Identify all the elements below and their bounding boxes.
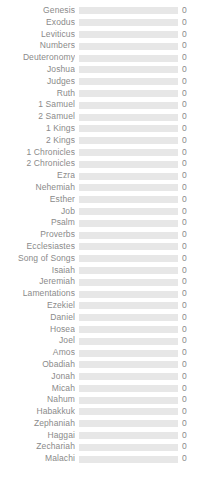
chart-row-label: 2 Samuel — [0, 111, 75, 123]
chart-bar-track — [79, 267, 178, 274]
chart-row[interactable]: Judges0 — [0, 76, 200, 88]
chart-row-label: Ecclesiastes — [0, 241, 75, 253]
chart-row-value: 0 — [182, 347, 200, 359]
chart-bar-track — [79, 55, 178, 62]
chart-bar-track — [79, 456, 178, 463]
chart-row[interactable]: Numbers0 — [0, 40, 200, 52]
chart-row-value: 0 — [182, 206, 200, 218]
chart-row[interactable]: Zephaniah0 — [0, 418, 200, 430]
chart-bar-track — [79, 255, 178, 262]
chart-bar-track — [79, 338, 178, 345]
chart-row[interactable]: Jeremiah0 — [0, 276, 200, 288]
chart-row-value: 0 — [182, 383, 200, 395]
chart-row-value: 0 — [182, 194, 200, 206]
chart-bar-track — [79, 432, 178, 439]
chart-row-value: 0 — [182, 76, 200, 88]
chart-row[interactable]: Ezra0 — [0, 170, 200, 182]
chart-bar-track — [79, 7, 178, 14]
chart-row-label: Habakkuk — [0, 406, 75, 418]
chart-row-label: Joel — [0, 335, 75, 347]
chart-row[interactable]: Joshua0 — [0, 64, 200, 76]
chart-row[interactable]: Genesis0 — [0, 5, 200, 17]
chart-bar-track — [79, 420, 178, 427]
chart-row-label: 2 Chronicles — [0, 158, 75, 170]
chart-row-label: Micah — [0, 383, 75, 395]
chart-row[interactable]: Zechariah0 — [0, 441, 200, 453]
chart-row-value: 0 — [182, 359, 200, 371]
chart-row[interactable]: Haggai0 — [0, 430, 200, 442]
chart-row[interactable]: Daniel0 — [0, 312, 200, 324]
chart-row-value: 0 — [182, 182, 200, 194]
chart-row-value: 0 — [182, 276, 200, 288]
chart-row[interactable]: Jonah0 — [0, 371, 200, 383]
chart-row[interactable]: Nahum0 — [0, 394, 200, 406]
chart-row[interactable]: Micah0 — [0, 383, 200, 395]
chart-bar-track — [79, 31, 178, 38]
chart-row-label: Isaiah — [0, 265, 75, 277]
chart-row[interactable]: Lamentations0 — [0, 288, 200, 300]
chart-row[interactable]: Amos0 — [0, 347, 200, 359]
chart-bar-track — [79, 90, 178, 97]
chart-row[interactable]: Ezekiel0 — [0, 300, 200, 312]
chart-bar-track — [79, 314, 178, 321]
chart-row-label: Ezra — [0, 170, 75, 182]
chart-bar-track — [79, 373, 178, 380]
chart-bar-track — [79, 208, 178, 215]
chart-row[interactable]: Psalm0 — [0, 217, 200, 229]
chart-row[interactable]: Job0 — [0, 206, 200, 218]
chart-row-value: 0 — [182, 123, 200, 135]
chart-row-value: 0 — [182, 288, 200, 300]
chart-row[interactable]: Isaiah0 — [0, 265, 200, 277]
chart-bar-track — [79, 114, 178, 121]
chart-row[interactable]: 1 Samuel0 — [0, 99, 200, 111]
chart-row-value: 0 — [182, 64, 200, 76]
chart-row[interactable]: Song of Songs0 — [0, 253, 200, 265]
chart-row-value: 0 — [182, 29, 200, 41]
chart-row-label: Deuteronomy — [0, 52, 75, 64]
chart-row[interactable]: Obadiah0 — [0, 359, 200, 371]
chart-row[interactable]: Proverbs0 — [0, 229, 200, 241]
chart-row-value: 0 — [182, 217, 200, 229]
chart-row-value: 0 — [182, 5, 200, 17]
chart-row[interactable]: Esther0 — [0, 194, 200, 206]
chart-row-label: Malachi — [0, 453, 75, 465]
chart-row[interactable]: Joel0 — [0, 335, 200, 347]
chart-row[interactable]: Ecclesiastes0 — [0, 241, 200, 253]
chart-row-value: 0 — [182, 300, 200, 312]
chart-row[interactable]: Exodus0 — [0, 17, 200, 29]
chart-row-label: Daniel — [0, 312, 75, 324]
chart-row[interactable]: 2 Kings0 — [0, 135, 200, 147]
chart-bar-track — [79, 43, 178, 50]
chart-row-value: 0 — [182, 147, 200, 159]
chart-row[interactable]: 2 Chronicles0 — [0, 158, 200, 170]
chart-row-label: Nahum — [0, 394, 75, 406]
chart-row[interactable]: Deuteronomy0 — [0, 52, 200, 64]
chart-row-label: Psalm — [0, 217, 75, 229]
chart-row-value: 0 — [182, 394, 200, 406]
chart-row-value: 0 — [182, 324, 200, 336]
chart-row[interactable]: Leviticus0 — [0, 29, 200, 41]
chart-row-value: 0 — [182, 229, 200, 241]
chart-row-value: 0 — [182, 418, 200, 430]
chart-row-label: Numbers — [0, 40, 75, 52]
chart-bar-track — [79, 350, 178, 357]
chart-bar-track — [79, 137, 178, 144]
chart-row-label: 1 Chronicles — [0, 147, 75, 159]
chart-row[interactable]: Ruth0 — [0, 88, 200, 100]
chart-row-label: 1 Kings — [0, 123, 75, 135]
chart-row[interactable]: 1 Chronicles0 — [0, 147, 200, 159]
chart-row-label: Nehemiah — [0, 182, 75, 194]
chart-row[interactable]: Malachi0 — [0, 453, 200, 465]
chart-row[interactable]: 2 Samuel0 — [0, 111, 200, 123]
chart-row[interactable]: 1 Kings0 — [0, 123, 200, 135]
chart-row[interactable]: Hosea0 — [0, 324, 200, 336]
chart-row-label: 1 Samuel — [0, 99, 75, 111]
chart-row-value: 0 — [182, 135, 200, 147]
chart-bar-track — [79, 397, 178, 404]
chart-row-value: 0 — [182, 441, 200, 453]
chart-row-value: 0 — [182, 312, 200, 324]
chart-row[interactable]: Nehemiah0 — [0, 182, 200, 194]
chart-row-label: Judges — [0, 76, 75, 88]
chart-row[interactable]: Habakkuk0 — [0, 406, 200, 418]
chart-row-label: Ruth — [0, 88, 75, 100]
